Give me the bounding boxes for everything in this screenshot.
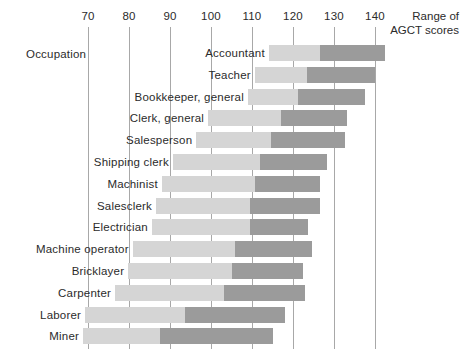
axis-caption: Range of AGCT scores (390, 9, 459, 37)
bar-row[interactable]: Shipping clerk (0, 151, 463, 173)
range-bar-lower-segment (133, 241, 235, 257)
range-bar[interactable] (152, 219, 308, 235)
axis-caption-line2: AGCT scores (390, 23, 459, 37)
range-bar[interactable] (133, 241, 312, 257)
range-bar-upper-segment (160, 328, 273, 344)
bar-row-label: Miner (49, 325, 83, 347)
range-bar-upper-segment (232, 263, 303, 279)
range-bar-lower-segment (248, 89, 298, 105)
range-bar[interactable] (85, 307, 285, 323)
bar-row-label: Machine operator (36, 238, 133, 260)
range-bar[interactable] (115, 285, 305, 301)
range-bar-upper-segment (185, 307, 285, 323)
range-bar-upper-segment (281, 110, 347, 126)
range-bar-lower-segment (269, 45, 320, 61)
range-bar-lower-segment (115, 285, 224, 301)
x-tick-label-70: 70 (81, 10, 94, 22)
range-bar-lower-segment (196, 132, 271, 148)
bar-row[interactable]: Teacher (0, 64, 463, 86)
range-bar[interactable] (255, 67, 375, 83)
range-bar[interactable] (173, 154, 327, 170)
bar-row[interactable]: Salesperson (0, 129, 463, 151)
bar-row[interactable]: Bricklayer (0, 260, 463, 282)
range-bar-upper-segment (224, 285, 305, 301)
range-bar-lower-segment (152, 219, 250, 235)
bar-row[interactable]: Machinist (0, 173, 463, 195)
bar-row-label: Salesclerk (97, 195, 156, 217)
range-bar-lower-segment (128, 263, 232, 279)
bar-row-label: Bookkeeper, general (135, 86, 248, 108)
range-bar-upper-segment (250, 198, 320, 214)
bar-row[interactable]: Laborer (0, 304, 463, 326)
range-bar-lower-segment (173, 154, 260, 170)
x-tick-label-140: 140 (365, 10, 385, 22)
bar-row-label: Salesperson (126, 129, 196, 151)
bar-row[interactable]: Bookkeeper, general (0, 86, 463, 108)
x-tick-label-130: 130 (324, 10, 344, 22)
agct-range-chart: Range of AGCT scores Occupation 70809010… (0, 0, 463, 349)
bar-row-label: Clerk, general (130, 107, 208, 129)
bar-row[interactable]: Electrician (0, 216, 463, 238)
bar-row[interactable]: Salesclerk (0, 195, 463, 217)
bar-row-label: Electrician (93, 216, 152, 238)
bar-row[interactable]: Accountant (0, 42, 463, 64)
range-bar-upper-segment (255, 176, 320, 192)
range-bar[interactable] (162, 176, 320, 192)
range-bar[interactable] (248, 89, 365, 105)
range-bar[interactable] (128, 263, 303, 279)
range-bar-lower-segment (208, 110, 281, 126)
bar-row-label: Laborer (40, 304, 85, 326)
range-bar-upper-segment (260, 154, 327, 170)
bar-row-label: Shipping clerk (94, 151, 173, 173)
x-tick-label-120: 120 (283, 10, 303, 22)
range-bar-upper-segment (307, 67, 375, 83)
bar-row-label: Machinist (107, 173, 161, 195)
range-bar-upper-segment (271, 132, 345, 148)
bar-row-label: Accountant (205, 42, 269, 64)
bar-row-label: Bricklayer (72, 260, 128, 282)
bar-row-label: Teacher (209, 64, 255, 86)
range-bar-lower-segment (162, 176, 255, 192)
bar-row[interactable]: Carpenter (0, 282, 463, 304)
x-tick-label-100: 100 (201, 10, 221, 22)
range-bar-upper-segment (250, 219, 308, 235)
range-bar[interactable] (208, 110, 347, 126)
range-bar-upper-segment (320, 45, 385, 61)
range-bar[interactable] (269, 45, 385, 61)
bar-row[interactable]: Machine operator (0, 238, 463, 260)
x-tick-label-90: 90 (163, 10, 176, 22)
range-bar[interactable] (83, 328, 273, 344)
range-bar[interactable] (196, 132, 345, 148)
range-bar-upper-segment (298, 89, 365, 105)
range-bar[interactable] (156, 198, 320, 214)
bar-row-label: Carpenter (58, 282, 115, 304)
x-tick-label-110: 110 (243, 10, 262, 22)
range-bar-lower-segment (83, 328, 160, 344)
range-bar-lower-segment (85, 307, 185, 323)
range-bar-lower-segment (156, 198, 250, 214)
x-tick-label-80: 80 (122, 10, 135, 22)
bar-row[interactable]: Miner (0, 325, 463, 347)
bar-row[interactable]: Clerk, general (0, 107, 463, 129)
range-bar-upper-segment (235, 241, 312, 257)
range-bar-lower-segment (255, 67, 307, 83)
axis-caption-line1: Range of (390, 9, 459, 23)
